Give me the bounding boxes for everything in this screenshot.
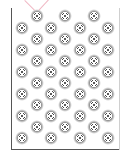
ring-marker-icon: [44, 21, 58, 35]
ring-marker-icon: [15, 87, 29, 101]
ring-marker-icon: [87, 9, 101, 23]
lattice-diagram: [0, 0, 124, 155]
ring-marker-icon: [44, 87, 58, 101]
ring-marker-icon: [44, 65, 58, 79]
ring-marker-icon: [101, 87, 115, 101]
ring-marker-icon: [44, 43, 58, 57]
ring-marker-icon: [30, 76, 44, 90]
ring-marker-icon: [73, 87, 87, 101]
ring-marker-icon: [44, 131, 58, 145]
ring-marker-icon: [58, 98, 72, 112]
ring-marker-icon: [73, 21, 87, 35]
ring-marker-icon: [73, 131, 87, 145]
ring-marker-icon: [44, 109, 58, 123]
ring-marker-icon: [58, 76, 72, 90]
ring-marker-icon: [101, 65, 115, 79]
ring-marker-icon: [15, 131, 29, 145]
ring-marker-icon: [30, 9, 44, 23]
ring-marker-icon: [30, 98, 44, 112]
frame-left-border: [11, 8, 12, 150]
ring-marker-icon: [30, 54, 44, 68]
ring-marker-icon: [87, 76, 101, 90]
ring-marker-icon: [101, 109, 115, 123]
ring-marker-icon: [58, 54, 72, 68]
ring-marker-icon: [101, 21, 115, 35]
ring-marker-icon: [15, 21, 29, 35]
ring-marker-icon: [73, 65, 87, 79]
frame-bottom-border: [11, 149, 119, 150]
ring-marker-icon: [73, 109, 87, 123]
ring-marker-icon: [15, 65, 29, 79]
ring-marker-icon: [30, 32, 44, 46]
frame-right-border: [119, 8, 120, 150]
ring-marker-icon: [87, 32, 101, 46]
ring-marker-icon: [15, 43, 29, 57]
ring-marker-icon: [73, 43, 87, 57]
ring-marker-icon: [58, 32, 72, 46]
ring-marker-icon: [87, 98, 101, 112]
ring-marker-icon: [58, 120, 72, 134]
ring-marker-icon: [15, 109, 29, 123]
ring-marker-icon: [101, 131, 115, 145]
ring-marker-icon: [58, 9, 72, 23]
ring-marker-icon: [87, 120, 101, 134]
ring-marker-icon: [87, 54, 101, 68]
ring-marker-icon: [30, 120, 44, 134]
ring-marker-icon: [101, 43, 115, 57]
